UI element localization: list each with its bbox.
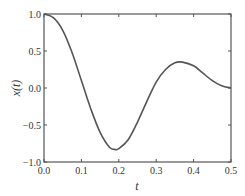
y-tick-label: −0.5 — [23, 120, 41, 131]
x-tick-label: 0.2 — [113, 165, 126, 176]
y-tick-label: −1.0 — [23, 157, 41, 168]
series-line-x-of-t — [44, 14, 231, 150]
axis-ticks — [44, 14, 231, 162]
y-tick-labels: −1.0−0.50.00.51.0 — [23, 9, 41, 168]
y-tick-label: 1.0 — [29, 9, 42, 20]
y-tick-label: 0.0 — [29, 83, 42, 94]
x-axis-label: t — [135, 179, 139, 193]
y-axis-label: x(t) — [9, 80, 23, 98]
x-tick-label: 0.1 — [75, 165, 88, 176]
y-tick-label: 0.5 — [29, 46, 42, 57]
x-tick-label: 0.5 — [225, 165, 238, 176]
x-tick-label: 0.4 — [187, 165, 200, 176]
x-tick-label: 0.3 — [150, 165, 163, 176]
line-chart: 0.00.10.20.30.40.5 −1.0−0.50.00.51.0 t x… — [0, 0, 245, 196]
x-tick-labels: 0.00.10.20.30.40.5 — [38, 165, 238, 176]
plot-frame — [44, 14, 231, 162]
